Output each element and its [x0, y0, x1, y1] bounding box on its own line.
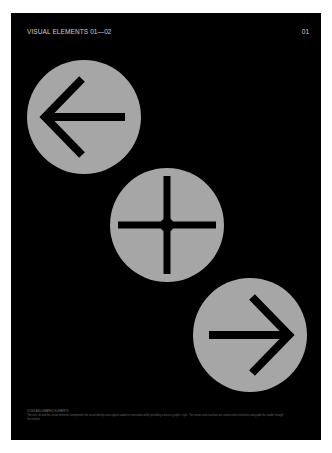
page-number: 01 — [302, 28, 309, 35]
arrow-right-icon — [193, 278, 307, 392]
caption: ICONS AND GRAPHIC ELEMENTS The icon set … — [27, 410, 287, 422]
header-title: VISUAL ELEMENTS 01—02 — [27, 28, 112, 35]
arrow-right-disc — [193, 278, 307, 392]
plus-crosshair-icon — [110, 168, 224, 282]
crosshair-disc — [110, 168, 224, 282]
poster-panel: VISUAL ELEMENTS 01—02 01 ICONS AND GRAPH… — [11, 13, 321, 440]
arrow-left-icon — [27, 60, 141, 174]
caption-body: The icon set and the visual elements com… — [27, 414, 283, 421]
arrow-left-disc — [27, 60, 141, 174]
